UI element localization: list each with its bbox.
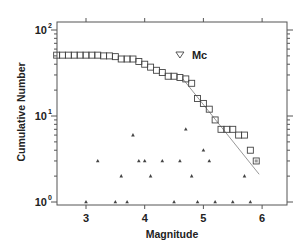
square-marker (165, 73, 171, 79)
y-tick-exponent: 0 (48, 194, 52, 201)
triangle-marker (161, 159, 165, 162)
triangle-marker (125, 200, 129, 203)
square-marker (77, 52, 83, 58)
triangle-marker (207, 159, 211, 162)
y-tick-label: 10 (35, 110, 47, 122)
triangle-marker (172, 200, 176, 203)
square-marker (189, 80, 195, 86)
square-marker (183, 76, 189, 82)
x-tick-label: 4 (142, 212, 149, 224)
triangle-marker (231, 200, 235, 203)
square-marker (130, 56, 136, 62)
cumulative-series (54, 52, 260, 164)
y-axis-title: Cumulative Number (15, 62, 27, 161)
y-tick-label: 10 (35, 196, 47, 208)
triangle-marker (114, 200, 118, 203)
mc-inverted-triangle-icon (176, 52, 184, 58)
square-marker (148, 64, 154, 70)
triangle-marker (119, 174, 123, 177)
incremental-series (84, 127, 252, 203)
y-tick-label: 10 (35, 24, 47, 36)
square-marker (106, 53, 112, 59)
triangle-marker (96, 159, 100, 162)
gr-chart: 3456100101102 Mc Magnitude Cumulative Nu… (0, 0, 304, 246)
square-marker (159, 70, 165, 76)
triangle-marker (84, 200, 88, 203)
triangle-marker (243, 174, 247, 177)
square-marker (124, 56, 130, 62)
triangle-marker (202, 148, 206, 151)
plot-border (57, 22, 287, 205)
mc-label: Mc (192, 49, 207, 61)
triangle-marker (143, 159, 147, 162)
square-marker (236, 132, 242, 138)
axis-ticks: 3456100101102 (35, 18, 293, 224)
triangle-marker (184, 127, 188, 130)
triangle-marker (196, 200, 200, 203)
triangle-marker (131, 133, 135, 136)
triangle-marker (249, 200, 253, 203)
square-marker (136, 59, 142, 65)
triangle-marker (137, 159, 141, 162)
square-marker (171, 73, 177, 79)
square-marker (153, 67, 159, 73)
y-tick-exponent: 1 (48, 108, 52, 115)
triangle-marker (178, 159, 182, 162)
x-axis-title: Magnitude (146, 228, 199, 240)
square-marker (95, 52, 101, 58)
highlight-inner-mark (255, 159, 258, 162)
square-marker (247, 147, 253, 153)
square-marker (89, 52, 95, 58)
square-marker (101, 53, 107, 59)
square-marker (177, 75, 183, 81)
square-marker (83, 52, 89, 58)
square-marker (60, 52, 66, 58)
square-marker (241, 132, 247, 138)
square-marker (118, 56, 124, 62)
mc-annotation: Mc (176, 49, 207, 61)
square-marker (142, 61, 148, 67)
x-tick-label: 3 (83, 212, 89, 224)
square-marker (71, 52, 77, 58)
x-tick-label: 6 (259, 212, 265, 224)
x-tick-label: 5 (200, 212, 206, 224)
y-tick-exponent: 2 (48, 22, 52, 29)
triangle-marker (213, 200, 217, 203)
square-marker (230, 126, 236, 132)
triangle-marker (190, 174, 194, 177)
triangle-marker (149, 174, 153, 177)
square-marker (65, 52, 71, 58)
plot-frame (57, 22, 287, 205)
square-marker (112, 54, 118, 60)
